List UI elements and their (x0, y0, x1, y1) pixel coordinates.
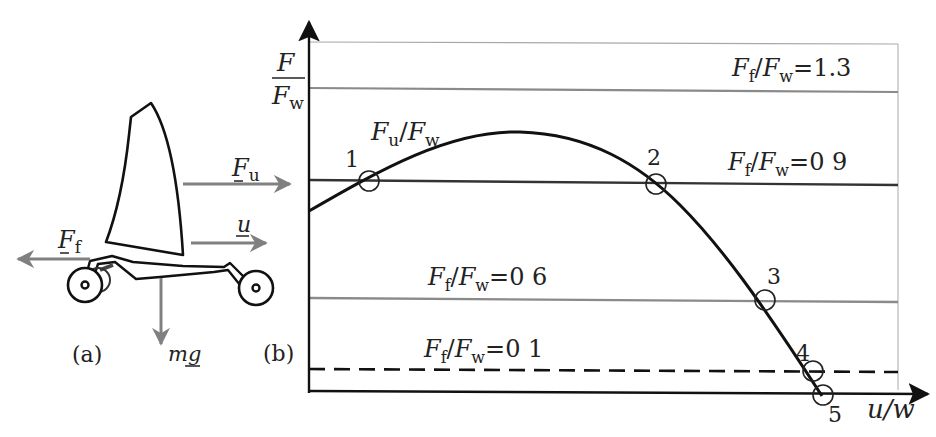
curve-label: Fu/Fw (370, 117, 440, 150)
panel-a-label: (a) (72, 342, 102, 367)
svg-text:F: F (276, 48, 296, 77)
friction-label-0.6: Ff/Fw=0 6 (427, 263, 547, 295)
point-3-label: 3 (767, 264, 781, 289)
friction-label-0.1: Ff/Fw=0 1 (423, 335, 543, 367)
friction-line-0.6 (309, 298, 898, 302)
weight-label: mg (168, 342, 201, 366)
friction-line-1.3 (309, 88, 898, 92)
x-axis (309, 391, 928, 394)
y-axis-label: F Fw (271, 48, 305, 113)
point-2-label: 2 (647, 145, 661, 170)
friction-line-0.1 (309, 369, 898, 372)
point-5-label: 5 (828, 402, 842, 427)
sail (106, 103, 183, 255)
panel-b-label: (b) (263, 341, 294, 366)
land-yacht-drawing (68, 103, 273, 305)
point-1-label: 1 (345, 147, 359, 172)
velocity-label: u (237, 212, 251, 237)
friction-label-0.9: Ff/Fw=0 9 (727, 148, 847, 180)
svg-text:Fw: Fw (271, 81, 304, 113)
friction-label-1.3: Ff/Fw=1.3 (731, 54, 851, 86)
x-axis-label: u/w (867, 394, 915, 424)
friction-line-0.9 (309, 180, 898, 185)
point-4-label: 4 (796, 341, 810, 366)
top-border (309, 42, 898, 44)
figure: Fu u Ff mg (a) (b) 1 2 3 4 5 F Fw (0, 0, 936, 437)
